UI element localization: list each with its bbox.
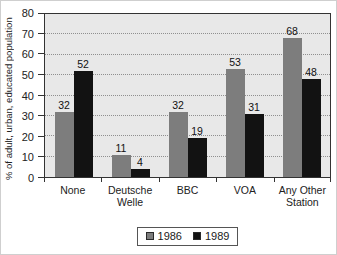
bar-value-label: 4	[137, 156, 143, 168]
y-axis-tick-label: 20	[22, 131, 34, 143]
x-axis-labels: NoneDeutsche WelleBBCVOAAny Other Statio…	[44, 184, 331, 208]
bar-chart-figure: % of adult, urban, educated population 0…	[0, 0, 337, 255]
bar-value-label: 68	[286, 25, 298, 37]
bar-value-label: 19	[191, 125, 203, 137]
bar-1989: 19	[188, 138, 207, 177]
bar-value-label: 53	[229, 56, 241, 68]
x-axis-tick	[216, 178, 217, 182]
y-axis-labels: 01020304050607080	[1, 13, 37, 178]
x-category-label: Deutsche Welle	[101, 184, 158, 208]
bar-value-label: 11	[116, 142, 127, 154]
y-axis-tick-label: 40	[22, 90, 34, 102]
legend-swatch-1986	[146, 232, 154, 240]
legend-item: 1989	[193, 230, 229, 242]
y-axis-tick-label: 60	[22, 48, 34, 60]
bar-value-label: 32	[58, 99, 70, 111]
bar-group: 5331	[216, 14, 273, 177]
bar-1986: 32	[55, 112, 74, 177]
y-axis-tick-label: 50	[22, 69, 34, 81]
bar-1989: 48	[302, 79, 321, 177]
legend-row: 19861989	[44, 227, 331, 246]
legend-label: 1986	[158, 230, 182, 242]
bar-1986: 11	[112, 155, 131, 177]
y-axis-tick-label: 80	[22, 7, 34, 19]
x-category-label: Any Other Station	[274, 184, 331, 208]
legend-box: 19861989	[137, 227, 239, 246]
legend-label: 1989	[205, 230, 229, 242]
legend-item: 1986	[146, 230, 182, 242]
x-axis-tick	[44, 178, 45, 182]
bar-group: 3219	[159, 14, 216, 177]
bars-layer: 3252114321953316848	[45, 14, 330, 177]
y-axis-tick-label: 30	[22, 110, 34, 122]
bar-1986: 68	[283, 38, 302, 177]
plot-area: 3252114321953316848	[44, 13, 331, 178]
bar-1986: 53	[226, 69, 245, 177]
x-category-label: VOA	[216, 184, 273, 208]
bar-value-label: 48	[305, 66, 317, 78]
bar-1986: 32	[169, 112, 188, 177]
bar-value-label: 32	[172, 99, 184, 111]
x-axis-tick	[274, 178, 275, 182]
bar-group: 3252	[45, 14, 102, 177]
bar-1989: 31	[245, 114, 264, 177]
x-category-label: None	[44, 184, 101, 208]
x-category-label: BBC	[159, 184, 216, 208]
bar-value-label: 52	[77, 58, 89, 70]
bar-group: 114	[102, 14, 159, 177]
legend-swatch-1989	[193, 232, 201, 240]
bar-group: 6848	[273, 14, 330, 177]
bar-1989: 52	[74, 71, 93, 177]
y-axis-tick-label: 0	[28, 172, 34, 184]
x-axis-tick	[330, 178, 331, 182]
x-axis-tick	[159, 178, 160, 182]
bar-value-label: 31	[248, 101, 260, 113]
x-axis-tick	[101, 178, 102, 182]
bar-1989: 4	[131, 169, 150, 177]
y-axis-tick-label: 10	[22, 151, 34, 163]
y-axis-tick-label: 70	[22, 28, 34, 40]
x-axis-ticks	[44, 178, 331, 183]
